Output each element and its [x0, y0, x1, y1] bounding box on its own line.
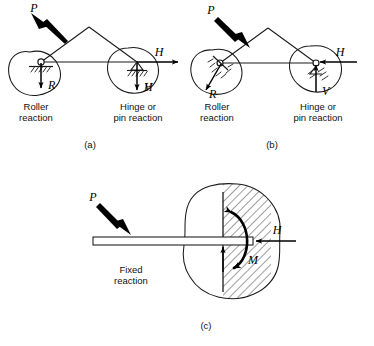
reaction-label-h-b: H	[335, 45, 346, 59]
fixed-caption-line1-c: Fixed	[119, 264, 142, 275]
hinge-caption-line1-a: Hinge or	[120, 101, 156, 112]
load-label-p-a: P	[29, 1, 38, 15]
reaction-label-r-b: R	[208, 87, 217, 101]
load-arrow-p-b	[214, 17, 240, 42]
load-label-p-c: P	[88, 190, 97, 204]
reaction-label-v-b: V	[322, 84, 331, 98]
reaction-label-h-a: H	[154, 45, 165, 59]
support-reactions-figure: P R H H V Roller	[0, 0, 374, 346]
panel-caption-c: (c)	[200, 320, 211, 331]
hinge-caption-line2-b: pin reaction	[293, 112, 342, 123]
roller-caption-line1-b: Roller	[205, 101, 230, 112]
frame-member-right-b	[268, 28, 316, 63]
reaction-label-m-c: M	[247, 253, 259, 267]
roller-caption-line1-a: Roller	[24, 101, 49, 112]
load-arrow-p-a	[42, 19, 68, 44]
fixed-caption-line2-c: reaction	[114, 275, 148, 286]
roller-caption-line2-b: reaction	[200, 112, 234, 123]
panel-c: P H M Fixed reaction (c)	[88, 180, 296, 331]
panel-caption-b: (b)	[266, 139, 278, 150]
panel-b: P R H V Roller	[191, 3, 357, 150]
reaction-label-h-c: H	[272, 223, 283, 237]
hinge-caption-line2-a: pin reaction	[113, 112, 162, 123]
roller-caption-line2-a: reaction	[19, 112, 53, 123]
hinge-caption-line1-b: Hinge or	[300, 101, 336, 112]
reaction-label-r-a: R	[47, 78, 56, 92]
load-label-p-b: P	[206, 3, 215, 17]
cantilever-beam-c	[93, 237, 253, 245]
panel-caption-a: (a)	[84, 139, 96, 150]
frame-member-left-a	[41, 27, 89, 62]
panel-a: P R H H V Roller	[9, 1, 178, 150]
frame-member-right-a	[89, 27, 137, 62]
